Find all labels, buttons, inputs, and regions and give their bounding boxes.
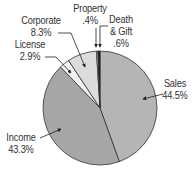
label-corporate-pct: 8.3% <box>19 26 63 38</box>
label-license: License 2.9% <box>12 38 47 62</box>
label-property: Property .4% <box>71 2 110 26</box>
label-corporate-name: Corporate <box>19 14 63 26</box>
label-sales-pct: 44.5% <box>159 89 191 101</box>
label-death-gift: Death & Gift .6% <box>108 13 134 49</box>
label-corporate: Corporate 8.3% <box>19 14 63 38</box>
label-license-name: License <box>12 38 47 50</box>
label-license-pct: 2.9% <box>12 50 47 62</box>
label-property-name: Property <box>71 2 110 14</box>
label-death-gift-name1: Death <box>108 13 134 25</box>
label-income-pct: 43.3% <box>5 143 37 155</box>
label-income: Income 43.3% <box>5 131 37 155</box>
label-sales: Sales 44.5% <box>159 77 191 101</box>
label-property-pct: .4% <box>71 14 110 26</box>
label-death-gift-name2: & Gift <box>108 25 134 37</box>
leader-death-gift <box>100 26 108 47</box>
label-death-gift-pct: .6% <box>108 37 134 49</box>
label-sales-name: Sales <box>159 77 191 89</box>
label-income-name: Income <box>5 131 37 143</box>
